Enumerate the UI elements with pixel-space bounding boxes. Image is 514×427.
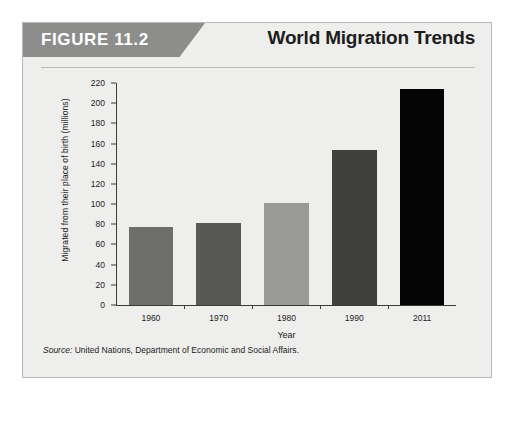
y-axis-tick-label: 220 <box>91 78 105 88</box>
y-axis-tick-label: 160 <box>91 139 105 149</box>
figure-header: FIGURE 11.2 World Migration Trends <box>23 23 491 61</box>
chart-plot-area: Migrated from their place of birth (mill… <box>23 75 493 325</box>
y-axis-tick-label: 100 <box>91 199 105 209</box>
x-axis-tick-label: 1980 <box>253 313 321 323</box>
y-axis-tick-label: 40 <box>96 260 105 270</box>
x-axis-tick-mark <box>252 305 253 309</box>
bar-slot <box>185 83 253 305</box>
x-axis-tick-label: 1960 <box>117 313 185 323</box>
source-label: Source: <box>43 345 72 355</box>
bar-series <box>117 83 456 305</box>
bar-slot <box>253 83 321 305</box>
x-axis-tick-label: 1990 <box>320 313 388 323</box>
x-axis-tick-label: 1970 <box>185 313 253 323</box>
y-axis-tick-label: 80 <box>96 219 105 229</box>
bar-slot <box>388 83 456 305</box>
source-text: United Nations, Department of Economic a… <box>72 345 299 355</box>
bar-1970 <box>196 223 241 305</box>
x-axis-tick-labels: 19601970198019902011 <box>117 313 456 323</box>
y-axis-title: Migrated from their place of birth (mill… <box>60 80 70 280</box>
figure-number-banner: FIGURE 11.2 <box>23 23 205 57</box>
bar-1990 <box>332 150 377 305</box>
x-axis-tick-label: 2011 <box>388 313 456 323</box>
y-axis-tick-label: 200 <box>91 98 105 108</box>
figure-panel: FIGURE 11.2 World Migration Trends Migra… <box>22 22 492 378</box>
header-divider <box>41 67 475 68</box>
bar-1980 <box>264 203 309 305</box>
y-axis-tick-labels: 220200180160140120100806040200 <box>77 83 111 305</box>
y-axis-tick-label: 120 <box>91 179 105 189</box>
y-axis-tick-label: 20 <box>96 280 105 290</box>
bar-1960 <box>129 227 174 305</box>
y-axis-tick-label: 180 <box>91 118 105 128</box>
bar-slot <box>320 83 388 305</box>
figure-title: World Migration Trends <box>268 27 475 49</box>
y-axis-tick-label: 0 <box>100 300 105 310</box>
y-axis-tick-label: 140 <box>91 159 105 169</box>
x-axis-tick-mark <box>388 305 389 309</box>
figure-number-label: FIGURE 11.2 <box>23 30 149 50</box>
y-axis-tick-label: 60 <box>96 239 105 249</box>
bar-slot <box>117 83 185 305</box>
x-axis-tick-mark <box>184 305 185 309</box>
x-axis-line <box>116 305 456 306</box>
source-note: Source: United Nations, Department of Ec… <box>43 345 299 355</box>
x-axis-title: Year <box>117 330 456 340</box>
bar-2011 <box>400 89 445 305</box>
x-axis-tick-mark <box>320 305 321 309</box>
